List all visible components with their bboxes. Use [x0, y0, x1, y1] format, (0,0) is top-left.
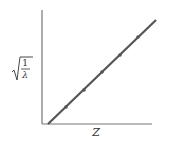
chart: Z 1 λ — [0, 0, 172, 143]
x-axis-label: Z — [91, 126, 100, 139]
svg-text:λ: λ — [21, 70, 28, 80]
y-axis-label: 1 λ — [12, 57, 33, 80]
svg-text:1: 1 — [22, 58, 28, 68]
